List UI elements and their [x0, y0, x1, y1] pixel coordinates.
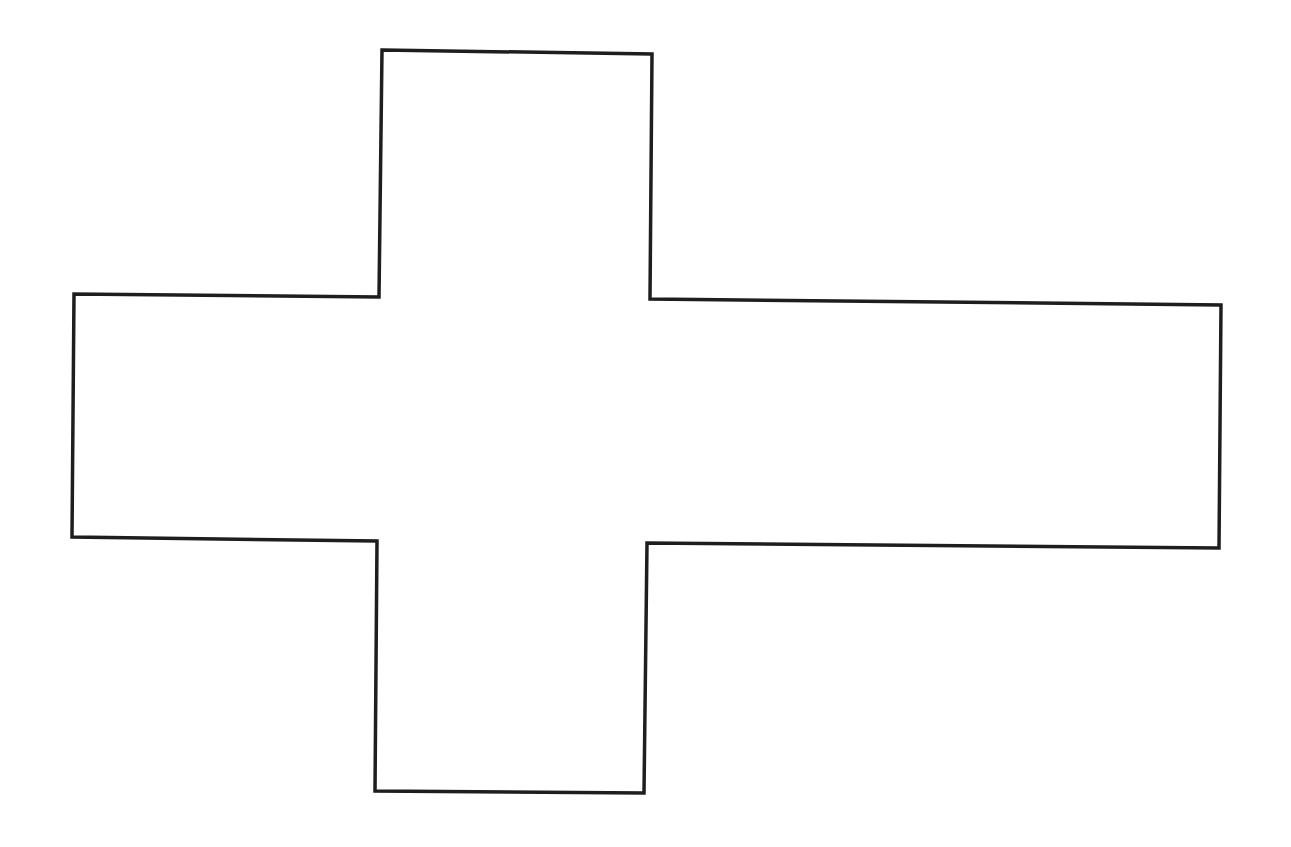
diagram-canvas [0, 0, 1291, 847]
